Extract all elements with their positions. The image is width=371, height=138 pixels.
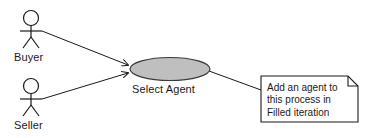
note-text-line: this process in	[267, 94, 351, 106]
use-case-ellipse	[130, 58, 210, 81]
actor-leg-left-icon	[23, 37, 31, 48]
association-line	[42, 73, 128, 99]
note-connector	[209, 71, 261, 90]
use-case-select-agent[interactable]	[130, 58, 210, 81]
actor-head-icon	[24, 11, 39, 26]
actor-buyer[interactable]	[20, 11, 42, 49]
association-line	[42, 31, 128, 65]
note-text-line: Add an agent to	[267, 82, 351, 94]
actor-label-seller: Seller	[14, 119, 43, 131]
actor-leg-left-icon	[23, 105, 31, 116]
actor-head-icon	[24, 79, 39, 94]
actor-leg-right-icon	[31, 105, 39, 116]
actor-label-buyer: Buyer	[14, 51, 43, 63]
use-case-diagram-canvas: Buyer Seller Select Agent Add an agent t…	[0, 0, 371, 138]
note-text-line: Filled iteration	[267, 107, 351, 119]
use-case-label-select-agent: Select Agent	[132, 83, 195, 95]
note-text-block: Add an agent to this process in Filled i…	[267, 82, 351, 119]
note-connector-line	[209, 71, 261, 90]
association-seller-select-agent	[42, 73, 128, 99]
association-buyer-select-agent	[42, 31, 128, 65]
actor-seller[interactable]	[20, 79, 42, 117]
actor-leg-right-icon	[31, 37, 39, 48]
